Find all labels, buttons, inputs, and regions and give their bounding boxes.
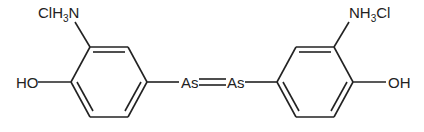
right-hydroxyl-label: OH	[388, 74, 411, 91]
right-benzene-ring	[277, 47, 353, 117]
bond-n-right	[334, 22, 349, 47]
bond	[334, 47, 353, 82]
bond-n-left	[75, 22, 90, 47]
right-amine-label: NH3Cl	[349, 4, 390, 24]
left-hydroxyl-label: HO	[16, 74, 39, 91]
bond	[128, 47, 147, 82]
left-amine-label: ClH3N	[38, 4, 79, 24]
arsenic-left-label: As	[181, 74, 199, 91]
bond	[277, 47, 296, 82]
arsenic-right-label: As	[227, 74, 245, 91]
chemical-structure-diagram: ClH3N HO As As NH3Cl OH	[0, 0, 424, 132]
bond	[71, 47, 90, 82]
left-benzene-ring	[71, 47, 147, 117]
